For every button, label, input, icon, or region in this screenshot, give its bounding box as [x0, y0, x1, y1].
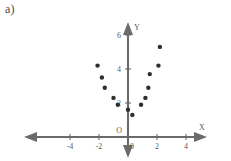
x-tick-label--4: -4 — [67, 142, 74, 151]
x-tick-label-0: 0 — [130, 142, 134, 151]
x-axis-arrow-right — [194, 132, 207, 142]
scatter-point — [130, 113, 134, 117]
scatter-point — [100, 75, 104, 79]
y-axis-arrow-up — [123, 22, 133, 35]
x-tick-label--2: -2 — [96, 142, 103, 151]
scatter-point — [103, 86, 107, 90]
x-axis-label: X — [199, 123, 205, 132]
scatter-point — [148, 72, 152, 76]
scatter-point — [156, 63, 160, 67]
scatter-plot-figure: a) -4 -2 0 2 4 2 4 6 O — [0, 0, 231, 161]
scatter-plot-canvas: -4 -2 0 2 4 2 4 6 O X Y — [0, 0, 231, 161]
y-tick-label-6: 6 — [117, 31, 121, 40]
scatter-point — [95, 63, 99, 67]
scatter-point — [146, 86, 150, 90]
scatter-point — [158, 45, 162, 49]
scatter-point — [126, 108, 130, 112]
scatter-point — [111, 96, 115, 100]
scatter-point — [143, 96, 147, 100]
origin-label: O — [116, 126, 122, 135]
x-axis-arrow-left — [24, 132, 37, 142]
scatter-point — [139, 103, 143, 107]
x-tick-label-2: 2 — [155, 142, 159, 151]
x-tick-label-4: 4 — [184, 142, 188, 151]
y-tick-label-4: 4 — [117, 65, 121, 74]
scatter-point — [116, 103, 120, 107]
y-axis-label: Y — [134, 23, 140, 32]
